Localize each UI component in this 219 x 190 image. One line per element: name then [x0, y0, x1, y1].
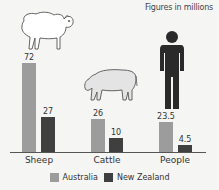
value-people-australia: 23.5 — [151, 112, 181, 121]
bar-people-new-zealand — [178, 145, 192, 152]
legend-label-australia: Australia — [63, 173, 98, 182]
bar-sheep-new-zealand — [41, 117, 55, 152]
person-icon — [160, 31, 184, 111]
legend: Australia New Zealand — [0, 173, 219, 182]
legend-item-australia: Australia — [50, 173, 98, 182]
legend-label-new-zealand: New Zealand — [117, 173, 170, 182]
legend-item-new-zealand: New Zealand — [104, 173, 170, 182]
legend-swatch-new-zealand — [104, 173, 113, 182]
units-note: Figures in millions — [145, 3, 213, 12]
x-axis-baseline — [10, 152, 206, 153]
legend-swatch-australia — [50, 173, 59, 182]
cow-icon — [82, 66, 138, 102]
value-sheep-australia: 72 — [14, 53, 44, 62]
bar-cattle-new-zealand — [109, 138, 123, 152]
category-label-people: People — [150, 155, 200, 165]
sheep-icon — [16, 9, 76, 53]
category-label-cattle: Cattle — [82, 155, 132, 165]
livestock-population-chart: Figures in millions 72 27 26 10 23.5 4.5… — [0, 0, 219, 190]
value-cattle-australia: 26 — [83, 109, 113, 118]
category-label-sheep: Sheep — [14, 155, 64, 165]
value-cattle-new-zealand: 10 — [101, 128, 131, 137]
value-people-new-zealand: 4.5 — [170, 135, 200, 144]
value-sheep-new-zealand: 27 — [33, 107, 63, 116]
